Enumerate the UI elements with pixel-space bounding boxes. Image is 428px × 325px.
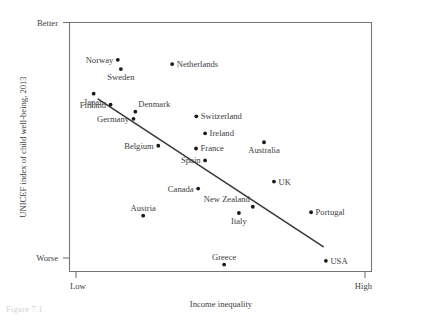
data-point: Norway: [86, 55, 120, 65]
data-point-label: Switzerland: [201, 111, 243, 121]
data-point-marker: [116, 58, 120, 62]
data-point: UK: [272, 177, 292, 187]
data-point-marker: [132, 117, 136, 121]
data-point: Belgium: [124, 141, 160, 151]
chart-canvas: Better Worse Low High Income inequality …: [0, 0, 428, 325]
data-point: USA: [324, 256, 348, 266]
data-point-label: Netherlands: [177, 59, 219, 69]
data-point-marker: [203, 159, 207, 163]
data-point-marker: [251, 205, 255, 209]
data-point-marker: [203, 131, 207, 135]
data-point-marker: [222, 263, 226, 267]
data-point: Italy: [231, 211, 247, 226]
xtick-label-low: Low: [70, 281, 87, 291]
data-point-marker: [196, 187, 200, 191]
data-point: Switzerland: [194, 111, 242, 121]
data-point-marker: [324, 259, 328, 263]
data-point-label: Canada: [168, 184, 194, 194]
scatter-chart: Better Worse Low High Income inequality …: [0, 0, 428, 325]
data-point: Denmark: [133, 99, 171, 113]
x-axis-title: Income inequality: [190, 299, 253, 309]
data-point-marker: [92, 92, 96, 96]
data-point-label: UK: [278, 177, 291, 187]
data-point-label: Germany: [97, 114, 130, 124]
data-point: Australia: [248, 140, 280, 155]
data-point: Canada: [168, 184, 200, 194]
data-point: Sweden: [107, 67, 135, 82]
data-point-label: Australia: [248, 145, 280, 155]
data-point-marker: [309, 210, 313, 214]
data-point-label: Belgium: [124, 141, 154, 151]
data-point-marker: [109, 103, 113, 107]
data-point-label: Sweden: [107, 72, 135, 82]
data-point-label: Norway: [86, 55, 114, 65]
data-point-label: Greece: [212, 252, 237, 262]
data-point: Ireland: [203, 128, 234, 138]
figure-caption: Figure 7.1: [6, 305, 43, 314]
data-point-label: New Zealand: [204, 194, 251, 204]
data-point-label: USA: [330, 256, 348, 266]
data-point: Netherlands: [170, 59, 219, 69]
data-point-label: Portugal: [316, 207, 346, 217]
ytick-label-better: Better: [37, 18, 58, 28]
data-point-marker: [194, 114, 198, 118]
data-point: New Zealand: [204, 194, 255, 208]
data-point-marker: [237, 211, 241, 215]
data-point-marker: [272, 180, 276, 184]
data-point-label: Finland: [80, 100, 107, 110]
data-point: Greece: [212, 252, 237, 266]
data-point: Portugal: [309, 207, 345, 217]
data-point-label: Spain: [181, 155, 201, 165]
data-point-label: Denmark: [138, 99, 171, 109]
data-point-marker: [119, 67, 123, 71]
data-points-layer: NorwaySwedenNetherlandsJapanFinlandDenma…: [80, 55, 349, 267]
data-point-marker: [194, 147, 198, 151]
data-point-marker: [156, 144, 160, 148]
data-point-marker: [141, 214, 145, 218]
data-point-label: Italy: [231, 216, 247, 226]
data-point-label: Austria: [131, 203, 156, 213]
data-point-marker: [170, 62, 174, 66]
data-point-marker: [262, 140, 266, 144]
data-point: Austria: [131, 203, 156, 217]
data-point-label: France: [201, 143, 225, 153]
xtick-label-high: High: [355, 281, 373, 291]
ytick-label-worse: Worse: [36, 253, 58, 263]
data-point-label: Ireland: [210, 128, 235, 138]
data-point-marker: [133, 110, 137, 114]
data-point: Spain: [181, 155, 207, 165]
y-axis-title: UNICEF index of child well-being, 2013: [18, 76, 28, 217]
data-point: France: [194, 143, 224, 153]
